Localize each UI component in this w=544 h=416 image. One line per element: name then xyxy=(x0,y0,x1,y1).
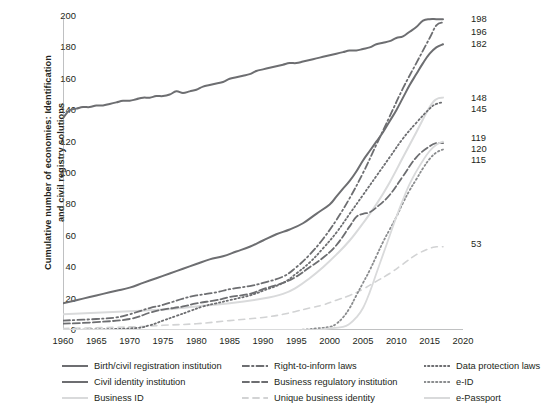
series-end-label: 120 xyxy=(471,143,487,154)
series-line-1 xyxy=(63,44,443,303)
legend-line-swatch xyxy=(62,376,88,388)
chart-container: Cumulative number of economies: Identifi… xyxy=(0,0,544,416)
legend-line-swatch xyxy=(62,360,88,372)
legend-item[interactable]: Civil identity institution xyxy=(62,374,185,390)
series-end-label: 196 xyxy=(471,26,487,37)
x-tick-label: 2020 xyxy=(440,335,486,346)
legend-item[interactable]: Business ID xyxy=(62,390,144,406)
plot-area xyxy=(63,16,463,330)
series-end-label: 53 xyxy=(471,238,481,249)
series-line-5 xyxy=(63,247,443,329)
legend-line-swatch xyxy=(242,360,268,372)
legend-label: Civil identity institution xyxy=(94,376,185,388)
legend-label: Business ID xyxy=(94,392,144,404)
series-line-6 xyxy=(63,102,443,330)
series-line-2 xyxy=(63,98,443,315)
series-line-0 xyxy=(63,19,443,118)
series-line-4 xyxy=(63,143,443,324)
series-end-label: 198 xyxy=(471,13,487,24)
legend-label: Data protection laws xyxy=(456,360,540,372)
legend-label: Business regulatory institution xyxy=(274,376,398,388)
legend-item[interactable]: Birth/civil registration institution xyxy=(62,358,222,374)
legend-line-swatch xyxy=(424,392,450,404)
chart-legend: Birth/civil registration institutionCivi… xyxy=(0,358,544,416)
series-line-7 xyxy=(63,149,443,330)
legend-item[interactable]: e-ID xyxy=(424,374,474,390)
legend-label: Birth/civil registration institution xyxy=(94,360,222,372)
legend-line-swatch xyxy=(424,376,450,388)
legend-item[interactable]: Right-to-inform laws xyxy=(242,358,357,374)
series-end-label: 148 xyxy=(471,92,487,103)
series-end-label: 115 xyxy=(471,154,486,165)
legend-label: e-Passport xyxy=(456,392,501,404)
legend-label: Unique business identity xyxy=(274,392,375,404)
legend-item[interactable]: Data protection laws xyxy=(424,358,540,374)
legend-line-swatch xyxy=(424,360,450,372)
plot-svg xyxy=(63,16,463,330)
legend-label: Right-to-inform laws xyxy=(274,360,357,372)
legend-item[interactable]: Business regulatory institution xyxy=(242,374,398,390)
legend-label: e-ID xyxy=(456,376,474,388)
series-end-label: 119 xyxy=(471,132,486,143)
series-end-label: 182 xyxy=(471,38,487,49)
legend-item[interactable]: Unique business identity xyxy=(242,390,375,406)
legend-line-swatch xyxy=(62,392,88,404)
legend-line-swatch xyxy=(242,392,268,404)
series-end-label: 145 xyxy=(471,103,487,114)
legend-line-swatch xyxy=(242,376,268,388)
legend-item[interactable]: e-Passport xyxy=(424,390,501,406)
